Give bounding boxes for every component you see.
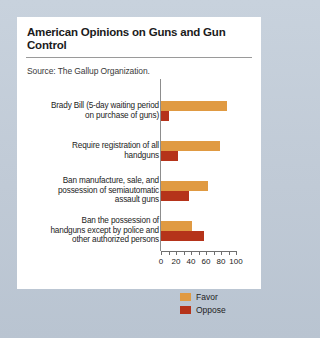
legend-item-favor: Favor (180, 291, 278, 302)
axis-tick (199, 251, 200, 255)
axis-tick (176, 251, 177, 255)
chart-legend: Favor Oppose (180, 291, 278, 317)
legend-label-oppose: Oppose (196, 305, 226, 315)
bar-group: Require registration of all handguns (17, 131, 261, 171)
legend-swatch-oppose (180, 306, 191, 314)
bar-group: Ban the possession of handguns except by… (17, 211, 261, 251)
axis-tick-label: 20 (172, 257, 181, 266)
axis-tick-label: 0 (159, 257, 163, 266)
bar-pair (161, 221, 204, 241)
axis-tick (191, 251, 192, 255)
chart-source: Source: The Gallup Organization. (17, 58, 261, 76)
axis-tick-label: 60 (202, 257, 211, 266)
axis-tick-label: 40 (187, 257, 196, 266)
chart-card: American Opinions on Guns and Gun Contro… (17, 17, 261, 289)
bar-oppose (161, 151, 178, 161)
bar-favor (161, 181, 208, 191)
axis-tick (161, 251, 162, 255)
legend-label-favor: Favor (196, 292, 218, 302)
bar-groups: Brady Bill (5-day waiting period on purc… (17, 91, 261, 251)
bar-favor (161, 101, 227, 111)
axis-tick (214, 251, 215, 255)
bar-group: Brady Bill (5-day waiting period on purc… (17, 91, 261, 131)
bar-pair (161, 101, 227, 121)
bar-favor (161, 221, 192, 231)
bar-pair (161, 181, 208, 201)
category-label: Brady Bill (5-day waiting period on purc… (49, 101, 159, 120)
axis-tick (229, 251, 230, 255)
bar-favor (161, 141, 220, 151)
axis-tick-labels: 0 20 40 60 80 100 (161, 257, 236, 269)
axis-tick (206, 251, 207, 255)
category-label: Require registration of all handguns (49, 141, 159, 160)
bar-oppose (161, 191, 189, 201)
axis-tick (221, 251, 222, 255)
axis-tick (169, 251, 170, 255)
axis-tick (184, 251, 185, 255)
axis-tick-label: 100 (229, 257, 242, 266)
bar-oppose (161, 111, 169, 121)
chart-plot-area: Brady Bill (5-day waiting period on purc… (17, 79, 261, 269)
page-title: American Opinions on Guns and Gun Contro… (17, 17, 261, 57)
axis-tick (236, 251, 237, 255)
bar-oppose (161, 231, 204, 241)
category-label: Ban manufacture, sale, and possession of… (49, 176, 159, 205)
legend-item-oppose: Oppose (180, 304, 278, 315)
legend-swatch-favor (180, 293, 191, 301)
bar-group: Ban manufacture, sale, and possession of… (17, 171, 261, 211)
bar-pair (161, 141, 220, 161)
axis-tick-label: 80 (217, 257, 226, 266)
category-label: Ban the possession of handguns except by… (49, 216, 159, 245)
